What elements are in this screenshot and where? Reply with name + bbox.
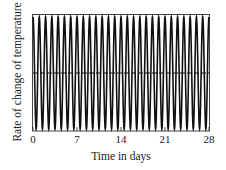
x-axis-label: Time in days [91,150,151,162]
x-axis-ticks [33,127,209,131]
y-axis-label: Rate of change of temperature [11,2,23,141]
x-tick-label: 7 [74,134,80,145]
x-tick-label: 14 [116,134,127,145]
x-tick-label: 21 [160,134,171,145]
x-tick-label: 28 [204,134,215,145]
x-tick-label: 0 [30,134,36,145]
